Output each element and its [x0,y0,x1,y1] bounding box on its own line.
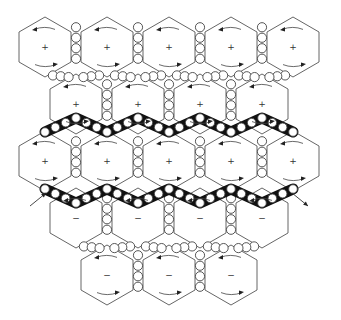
bead [110,243,119,252]
band-bead [41,185,50,194]
cell-sign: − [103,270,111,280]
cell-sign: − [134,213,142,223]
cell-sign: + [227,42,235,52]
band-bead [103,185,112,194]
hexagonal-lattice-diagram: ++++++++++++++−−−−−−− [0,0,341,320]
bead [126,72,135,81]
band-bead [165,185,174,194]
bead [71,137,80,146]
bead [226,204,235,213]
bead [195,54,204,63]
bead [195,147,204,156]
bead [71,23,80,32]
band-bead [258,114,267,123]
band-bead [268,194,277,203]
band-bead [134,199,143,208]
bead [226,90,235,99]
band-bead [278,123,287,132]
band-bead [72,114,81,123]
bead [226,215,235,224]
band-bead [289,128,298,137]
band-bead [227,185,236,194]
bead [195,23,204,32]
bead [71,147,80,156]
bead [219,243,228,252]
cell-sign: + [134,99,142,109]
band-bead [103,128,112,137]
bead [195,272,204,281]
cell-sign: + [103,156,111,166]
bead [172,243,181,252]
cell-sign: + [289,156,297,166]
bead [195,168,204,177]
bead [71,158,80,167]
bead [71,54,80,63]
band-bead [237,123,246,132]
bead [164,225,173,234]
bead [257,158,266,167]
bead [257,33,266,42]
bead [226,80,235,89]
bead [133,168,142,177]
cell-sign: + [103,42,111,52]
bead [234,243,243,252]
band-bead [216,189,225,198]
bead [95,243,104,252]
bead [133,137,142,146]
band-bead [82,194,91,203]
cell-sign: + [289,42,297,52]
band-bead [206,194,215,203]
cell-sign: + [165,156,173,166]
bead [102,204,111,213]
band-bead [154,189,163,198]
bead [102,215,111,224]
bead [226,111,235,120]
bead [257,44,266,53]
band-bead [51,189,60,198]
bead [257,168,266,177]
band-bead [258,199,267,208]
bead [257,137,266,146]
cell-sign: + [72,99,80,109]
bead [102,111,111,120]
bead [265,72,274,81]
bead [188,72,197,81]
bead [133,251,142,260]
band-bead [134,114,143,123]
bead [195,33,204,42]
bead [257,23,266,32]
bead [71,44,80,53]
bead [71,33,80,42]
cell-sign: + [41,42,49,52]
band-bead [154,123,163,132]
bead [102,225,111,234]
bead [133,147,142,156]
bead [133,33,142,42]
band-bead [196,199,205,208]
bead [195,251,204,260]
band-bead [113,189,122,198]
cell-sign: − [258,213,266,223]
band-bead [113,123,122,132]
bead [157,243,166,252]
bead [102,80,111,89]
bead [64,72,73,81]
bead [203,72,212,81]
band-bead [72,199,81,208]
bead [79,72,88,81]
bead [195,158,204,167]
bead [195,44,204,53]
bead [226,101,235,110]
band-bead [227,128,236,137]
bead [133,23,142,32]
band-bead [237,189,246,198]
bead [195,282,204,291]
band-bead [92,123,101,132]
band-bead [165,128,174,137]
bead [133,158,142,167]
cell-sign: + [258,99,266,109]
cell-sign: − [227,270,235,280]
bead [164,101,173,110]
bead [102,90,111,99]
bead [141,72,150,81]
